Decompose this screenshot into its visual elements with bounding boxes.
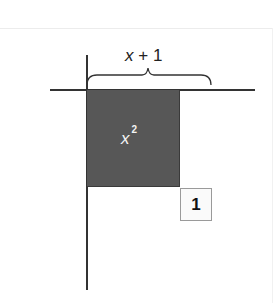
x-squared-base: x: [121, 129, 130, 148]
brace-label-variable: x: [125, 46, 134, 65]
x-squared-exponent: 2: [132, 124, 138, 135]
x-squared-label: x2: [121, 129, 137, 147]
unit-tile: 1: [180, 188, 212, 221]
brace-label-operator: +: [138, 46, 148, 65]
brace-label: x + 1: [125, 47, 162, 64]
curly-brace-icon: [86, 64, 214, 86]
right-border-rule: [272, 28, 273, 303]
brace-label-constant: 1: [153, 46, 162, 65]
top-border-rule: [0, 28, 272, 29]
algebra-tiles-diagram: x + 1 x2 1: [0, 0, 275, 303]
